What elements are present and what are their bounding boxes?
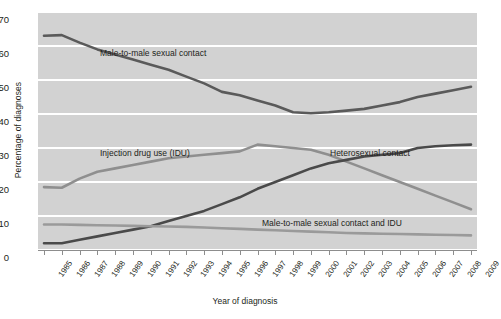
x-tick-label: 2002 — [359, 259, 377, 279]
x-tick-mark — [62, 250, 63, 255]
x-tick-label: 1996 — [252, 259, 270, 279]
x-tick-mark — [240, 250, 241, 255]
x-tick-label: 2006 — [430, 259, 448, 279]
x-tick-mark — [275, 250, 276, 255]
x-tick-label: 1994 — [217, 259, 235, 279]
x-tick-mark — [133, 250, 134, 255]
x-tick-label: 1985 — [57, 259, 75, 279]
y-tick-label: 0 — [0, 252, 9, 263]
x-tick-mark — [435, 250, 436, 255]
x-tick-label: 2001 — [341, 259, 359, 279]
x-tick-mark — [293, 250, 294, 255]
x-axis-title: Year of diagnosis — [0, 296, 490, 306]
x-tick-label: 1989 — [128, 259, 146, 279]
x-axis-line — [38, 250, 477, 256]
x-tick-label: 2004 — [395, 259, 413, 279]
x-tick-mark — [364, 250, 365, 255]
x-tick-mark — [346, 250, 347, 255]
y-tick-label: 10 — [0, 218, 9, 229]
y-tick-label: 50 — [0, 82, 9, 93]
x-tick-label: 2008 — [466, 259, 484, 279]
x-tick-label: 1999 — [306, 259, 324, 279]
x-tick-mark — [382, 250, 383, 255]
x-tick-label: 1990 — [146, 259, 164, 279]
x-tick-mark — [258, 250, 259, 255]
x-tick-mark — [471, 250, 472, 255]
series-label: Injection drug use (IDU) — [100, 148, 190, 158]
x-tick-label: 1992 — [181, 259, 199, 279]
x-tick-mark — [400, 250, 401, 255]
y-axis-title: Percentage of diagnoses — [13, 60, 23, 200]
x-tick-mark — [204, 250, 205, 255]
x-tick-label: 1997 — [270, 259, 288, 279]
x-tick-label: 2005 — [412, 259, 430, 279]
x-tick-mark — [115, 250, 116, 255]
y-tick-label: 70 — [0, 14, 9, 25]
x-tick-mark — [311, 250, 312, 255]
series-label: Male-to-male sexual contact — [100, 48, 206, 58]
x-tick-label: 1986 — [74, 259, 92, 279]
y-tick-label: 60 — [0, 48, 9, 59]
x-tick-mark — [453, 250, 454, 255]
x-tick-mark — [418, 250, 419, 255]
x-tick-mark — [97, 250, 98, 255]
x-tick-mark — [329, 250, 330, 255]
y-tick-label: 20 — [0, 184, 9, 195]
x-tick-mark — [80, 250, 81, 255]
x-tick-label: 1991 — [163, 259, 181, 279]
series-line — [44, 35, 471, 113]
y-tick-label: 40 — [0, 116, 9, 127]
x-tick-mark — [169, 250, 170, 255]
x-tick-label: 2009 — [484, 259, 501, 279]
plot-area: Male-to-male sexual contactInjection dru… — [38, 12, 477, 250]
series-label: Male-to-male sexual contact and IDU — [262, 218, 402, 228]
x-tick-label: 1988 — [110, 259, 128, 279]
x-tick-label: 1995 — [234, 259, 252, 279]
x-tick-mark — [222, 250, 223, 255]
x-tick-label: 1998 — [288, 259, 306, 279]
x-tick-mark — [186, 250, 187, 255]
x-tick-label: 2003 — [377, 259, 395, 279]
y-tick-label: 30 — [0, 150, 9, 161]
x-tick-label: 1993 — [199, 259, 217, 279]
x-tick-mark — [151, 250, 152, 255]
x-tick-label: 2000 — [323, 259, 341, 279]
x-tick-label: 1987 — [92, 259, 110, 279]
x-tick-mark — [44, 250, 45, 255]
series-label: Heterosexual contact — [330, 148, 410, 158]
x-tick-label: 2007 — [448, 259, 466, 279]
